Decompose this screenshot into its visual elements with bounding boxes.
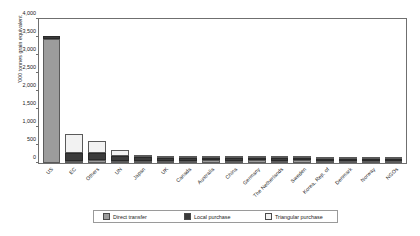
x-tick-label: Japan — [132, 166, 147, 181]
x-tick-label: China — [224, 166, 238, 180]
x-label-cell: NGOs — [383, 165, 406, 211]
x-label-cell: Norway — [360, 165, 383, 211]
x-tick-label: UK — [160, 166, 169, 175]
x-label-cell: Australia — [200, 165, 223, 211]
bar-stack — [225, 156, 243, 163]
bar-segment — [179, 161, 197, 163]
x-label-cell: The Netherlands — [268, 165, 291, 211]
legend-item[interactable]: Triangular purchase — [256, 213, 337, 220]
plot-area: 05001,0001,5002,0002,5003,0003,5004,000 — [38, 18, 407, 164]
bar-stack — [362, 157, 380, 163]
bar-column[interactable] — [108, 19, 131, 163]
x-label-cell: Others — [85, 165, 108, 211]
legend-swatch-icon — [103, 213, 110, 220]
bar-stack — [65, 134, 83, 163]
bar-segment — [88, 160, 106, 163]
bar-stack — [271, 156, 289, 163]
bar-column[interactable] — [382, 19, 405, 163]
x-label-cell: China — [223, 165, 246, 211]
bar-column[interactable] — [359, 19, 382, 163]
bar-stack — [88, 141, 106, 163]
bar-segment — [43, 39, 61, 163]
x-label-cell: Denmark — [337, 165, 360, 211]
legend-label: Triangular purchase — [275, 214, 323, 220]
legend-item[interactable]: Local purchase — [175, 213, 256, 220]
bar-stack — [248, 156, 266, 163]
bar-stack — [202, 156, 220, 163]
bar-stack — [179, 156, 197, 163]
bar-column[interactable] — [63, 19, 86, 163]
bar-column[interactable] — [40, 19, 63, 163]
bar-segment — [111, 161, 129, 163]
bar-column[interactable] — [200, 19, 223, 163]
x-axis-labels: USECOthersUNJapanUKCanadaAustraliaChinaG… — [38, 165, 407, 211]
bar-segment — [65, 134, 83, 153]
legend-item[interactable]: Direct transfer — [94, 213, 175, 220]
bar-stack — [293, 156, 311, 163]
x-tick-label: UN — [114, 166, 124, 176]
x-label-cell: UK — [154, 165, 177, 211]
legend-label: Direct transfer — [113, 214, 147, 220]
x-tick-label: Sweden — [289, 166, 307, 184]
bar-segment — [202, 160, 220, 163]
bar-column[interactable] — [291, 19, 314, 163]
bar-stack — [339, 157, 357, 163]
bar-stack — [316, 157, 334, 163]
y-tick-label: 3,500 — [23, 28, 37, 34]
bar-segment — [65, 153, 83, 161]
bar-column[interactable] — [86, 19, 109, 163]
legend-label: Local purchase — [194, 214, 231, 220]
bar-stack — [134, 155, 152, 163]
y-tick-label: 2,500 — [23, 64, 37, 70]
bar-segment — [157, 161, 175, 163]
bar-segment — [271, 161, 289, 163]
x-tick-label: Denmark — [333, 166, 353, 186]
bar-column[interactable] — [337, 19, 360, 163]
y-tick-label: 4,000 — [23, 10, 37, 16]
bar-segment — [385, 161, 403, 163]
bar-stack — [43, 36, 61, 163]
y-tick-label: 0 — [33, 154, 36, 160]
x-tick-label: Canada — [175, 166, 193, 184]
bar-segment — [88, 153, 106, 160]
y-tick-label: 1,500 — [23, 100, 37, 106]
x-tick-label: Norway — [359, 166, 376, 183]
bar-segment — [65, 161, 83, 163]
x-tick-label: US — [45, 166, 54, 175]
x-tick-label: Others — [85, 166, 101, 182]
y-tick-label: 3,000 — [23, 46, 37, 52]
bar-segment — [362, 161, 380, 163]
bar-stack — [111, 150, 129, 163]
legend-swatch-icon — [265, 213, 272, 220]
x-label-cell: Korea, Rep. of — [314, 165, 337, 211]
bar-segment — [339, 161, 357, 163]
stacked-bar-chart: '000 tonnes grain equivalent 05001,0001,… — [0, 0, 420, 236]
x-label-cell: US — [39, 165, 62, 211]
bar-column[interactable] — [154, 19, 177, 163]
bar-column[interactable] — [314, 19, 337, 163]
bar-stack — [385, 157, 403, 163]
bar-segment — [248, 160, 266, 163]
bar-column[interactable] — [177, 19, 200, 163]
x-label-cell: UN — [108, 165, 131, 211]
bar-segment — [134, 161, 152, 163]
bar-segment — [316, 161, 334, 163]
y-tick-label: 1,000 — [23, 118, 37, 124]
x-label-cell: Japan — [131, 165, 154, 211]
x-tick-label: EC — [68, 166, 77, 175]
y-tick-label: 2,000 — [23, 82, 37, 88]
bar-stack — [157, 156, 175, 163]
bar-column[interactable] — [268, 19, 291, 163]
bar-column[interactable] — [131, 19, 154, 163]
x-label-cell: EC — [62, 165, 85, 211]
bar-column[interactable] — [223, 19, 246, 163]
bar-segment — [225, 161, 243, 163]
bar-series-container — [39, 19, 406, 163]
y-tick-label: 500 — [27, 136, 36, 142]
bar-column[interactable] — [245, 19, 268, 163]
x-tick-label: NGOs — [384, 166, 399, 181]
legend-swatch-icon — [184, 213, 191, 220]
chart-legend: Direct transferLocal purchaseTriangular … — [93, 210, 338, 223]
bar-segment — [293, 160, 311, 163]
x-tick-label: Australia — [196, 166, 215, 185]
